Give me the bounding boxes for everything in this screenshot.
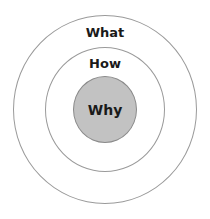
label-why: Why (0, 103, 210, 117)
label-how: How (0, 57, 210, 71)
label-what: What (0, 26, 210, 40)
